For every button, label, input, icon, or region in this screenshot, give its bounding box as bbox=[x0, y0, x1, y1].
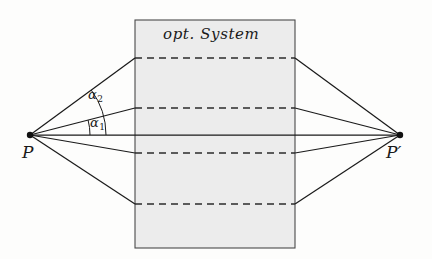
ray-lower-inner-in bbox=[30, 135, 135, 153]
ray-upper-inner-in bbox=[30, 108, 135, 135]
object-point-marker bbox=[27, 132, 33, 138]
alpha1-subscript: 1 bbox=[99, 122, 105, 132]
ray-upper-outer-in bbox=[30, 58, 135, 135]
ray-lower-inner-out bbox=[295, 135, 400, 153]
optical-system-box bbox=[135, 20, 295, 248]
angle-label-alpha1: α1 bbox=[90, 116, 105, 129]
object-point-label: P bbox=[22, 144, 33, 161]
alpha1-symbol: α bbox=[90, 115, 99, 130]
ray-lower-outer-in bbox=[30, 135, 135, 204]
optical-system-label: opt. System bbox=[163, 27, 259, 42]
ray-upper-inner-out bbox=[295, 108, 400, 135]
optical-system-diagram: opt. System P P′ α2 α1 bbox=[0, 0, 432, 259]
alpha2-symbol: α bbox=[88, 87, 97, 102]
ray-lower-outer-out bbox=[295, 135, 400, 204]
image-point-label: P′ bbox=[386, 144, 401, 161]
angle-label-alpha2: α2 bbox=[88, 88, 103, 101]
image-point-marker bbox=[397, 132, 403, 138]
alpha2-subscript: 2 bbox=[97, 94, 103, 104]
outgoing-rays-group bbox=[295, 58, 400, 204]
incoming-rays-group bbox=[30, 58, 135, 204]
ray-upper-outer-out bbox=[295, 58, 400, 135]
